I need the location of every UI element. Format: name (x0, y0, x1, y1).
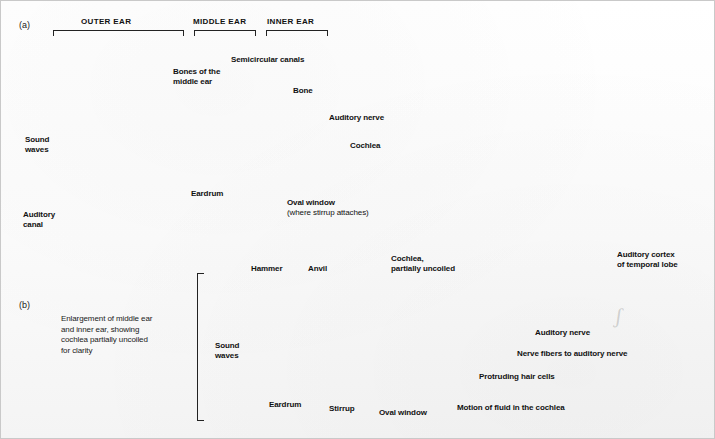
temporal-bone-illustration (111, 45, 381, 251)
leader-oval-window-b (369, 373, 393, 399)
bracket-outer-ear (53, 30, 184, 36)
label-oval-window-a: Oval window (287, 198, 335, 208)
leader-nerve-fibers-2 (441, 353, 511, 361)
panel-b-caption: Enlargement of middle ear and inner ear,… (61, 314, 152, 356)
semicircular-canals-illustration (257, 101, 309, 149)
sound-wave-arcs-panel-a-shadow (61, 105, 104, 185)
label-eardrum-b: Eardrum (269, 400, 301, 410)
panel-b-marker: (b) (19, 301, 30, 311)
semicircular-canals-outline (257, 101, 309, 149)
auditory-canal-illustration (87, 126, 209, 167)
label-hammer: Hammer (251, 264, 282, 274)
ear-anatomy-figure: ʃ (a) (b) OUTER EAR MIDDLE EAR INNER EAR… (0, 0, 715, 439)
label-auditory-cortex: Auditory cortex of temporal lobe (617, 250, 678, 269)
label-bones-of-middle-ear: Bones of the middle ear (173, 67, 220, 86)
label-oval-window-b: Oval window (379, 408, 427, 418)
header-outer-ear: OUTER EAR (81, 17, 131, 27)
scan-artifact: ʃ (613, 303, 624, 330)
leader-auditory-nerve-a2 (301, 122, 323, 147)
leader-protruding-hair-cells (425, 355, 469, 377)
anatomy-artwork (1, 1, 715, 439)
leader-auditory-nerve-a1 (299, 119, 323, 137)
sound-wave-compression-lines (179, 131, 209, 167)
leader-cochlea-uncoiled (407, 277, 431, 313)
label-protruding-hair-cells: Protruding hair cells (479, 372, 555, 382)
leader-auditory-nerve-b (483, 301, 517, 323)
nerve-pathway-to-brain (467, 201, 567, 309)
scan-tint-overlay (1, 1, 714, 438)
header-inner-ear: INNER EAR (267, 17, 314, 27)
brain-illustration (533, 114, 699, 301)
oval-window-marker-panel-a (277, 148, 282, 153)
bracket-middle-ear (194, 30, 256, 36)
stirrup-bone-illustration (331, 344, 370, 373)
label-eardrum-a: Eardrum (191, 189, 223, 199)
cochlea-uncoiled-illustration (343, 295, 459, 399)
eardrum-illustration-panel-b (301, 319, 310, 381)
auditory-nerve-illustration-panel-a (301, 133, 353, 153)
label-auditory-nerve-a: Auditory nerve (329, 113, 384, 123)
leader-nerve-fibers-1 (443, 337, 511, 351)
fluid-motion-arrows (363, 301, 453, 399)
nerve-fibers-illustration (441, 323, 497, 371)
oval-window-marker-panel-b (364, 368, 371, 375)
label-sound-waves-b: Sound waves (215, 341, 239, 360)
eardrum-illustration (211, 129, 217, 171)
leader-bone (303, 99, 321, 115)
label-cochlea-a: Cochlea (350, 141, 380, 151)
leader-hammer (271, 273, 307, 317)
label-stirrup: Stirrup (329, 404, 355, 414)
middle-ear-bones-illustration (206, 102, 253, 153)
hammer-bone-illustration (301, 305, 320, 369)
label-motion-of-fluid: Motion of fluid in the cochlea (457, 403, 565, 413)
label-bone: Bone (293, 86, 313, 96)
label-anvil: Anvil (308, 264, 327, 274)
leader-semicircular-1 (263, 67, 269, 105)
label-semicircular-canals: Semicircular canals (231, 55, 304, 65)
cochlea-illustration-panel-a (270, 131, 306, 162)
outer-ear-illustration (43, 21, 147, 251)
leader-stirrup (343, 359, 357, 399)
bracket-panel-b (197, 273, 204, 421)
leader-oval-window-a (273, 155, 282, 199)
auditory-nerve-illustration-panel-b (453, 293, 517, 319)
leader-anvil (321, 273, 331, 315)
label-sound-waves-a: Sound waves (25, 135, 49, 154)
header-middle-ear: MIDDLE EAR (193, 17, 246, 27)
anvil-bone-illustration (316, 305, 343, 365)
leader-bones-middle-ear-1 (225, 81, 229, 117)
leader-eardrum-b (289, 357, 303, 399)
leader-semicircular-2 (269, 67, 283, 109)
label-oval-window-a-note: (where stirrup attaches) (287, 208, 369, 218)
label-nerve-fibers: Nerve fibers to auditory nerve (517, 349, 627, 359)
label-auditory-canal: Auditory canal (23, 210, 55, 229)
leader-cochlea-a (307, 145, 342, 151)
bracket-inner-ear (266, 30, 328, 36)
label-cochlea-partially-uncoiled: Cochlea, partially uncoiled (391, 254, 455, 273)
panel-a-marker: (a) (19, 21, 30, 31)
sound-wave-lines-panel-b (245, 321, 287, 379)
leader-bones-middle-ear-2 (230, 81, 239, 127)
sound-wave-arcs-panel-a (59, 105, 116, 185)
label-auditory-nerve-b: Auditory nerve (535, 328, 590, 338)
